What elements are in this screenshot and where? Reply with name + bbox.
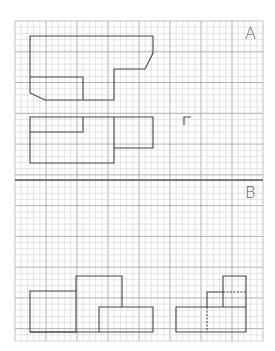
section-label-a: A	[245, 26, 256, 42]
section-label-b: B	[245, 185, 255, 201]
shape-b-step-mid	[207, 292, 223, 307]
shape-b-left-rect	[30, 291, 76, 332]
grid-diagram	[0, 0, 275, 351]
shape-a-small-mark	[184, 117, 191, 125]
